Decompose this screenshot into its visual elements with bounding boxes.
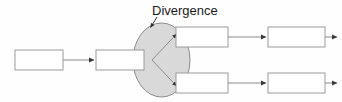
box-input-second — [96, 50, 144, 70]
box-branch-top-second — [268, 27, 325, 47]
box-branch-top-first — [176, 27, 228, 47]
divergence-flow-diagram: Divergence — [0, 0, 342, 102]
box-input-start — [15, 50, 63, 70]
diagram-canvas: Divergence — [0, 0, 342, 102]
box-branch-bottom-second — [268, 73, 325, 93]
box-branch-bottom-first — [176, 73, 228, 93]
divergence-label: Divergence — [152, 3, 218, 18]
